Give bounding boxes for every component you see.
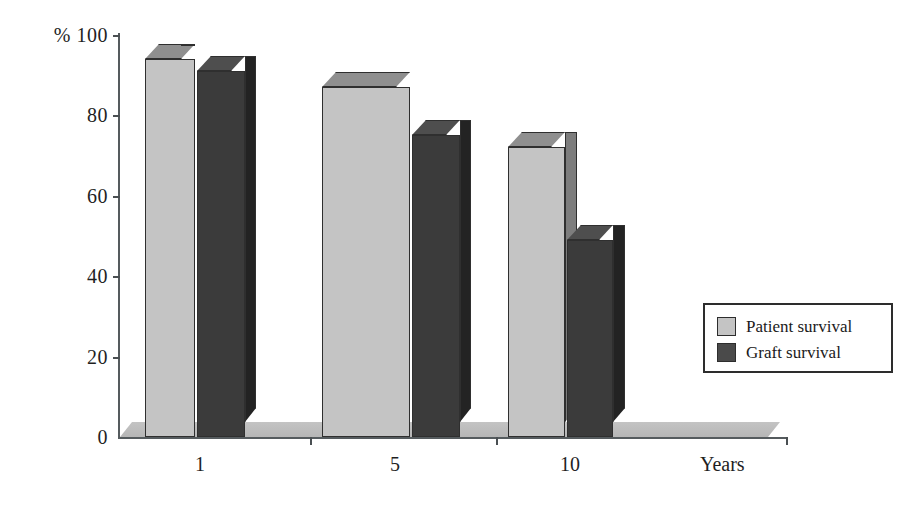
y-axis-label-20-wrap: 20 bbox=[10, 347, 108, 367]
y-axis-tick-40 bbox=[113, 276, 120, 278]
bar-patient-survival-year-5 bbox=[322, 72, 410, 437]
x-axis-label-10: 10 bbox=[525, 452, 615, 476]
x-axis-label-5: 5 bbox=[350, 452, 440, 476]
legend-item-graft-survival: Graft survival bbox=[717, 339, 891, 365]
legend-swatch-graft-survival bbox=[717, 343, 736, 362]
chart-legend: Patient survival Graft survival bbox=[703, 303, 893, 373]
bar-top-face bbox=[508, 132, 565, 147]
x-axis-label-1: 1 bbox=[155, 452, 245, 476]
bar-top-face bbox=[412, 120, 460, 135]
legend-item-patient-survival: Patient survival bbox=[717, 313, 891, 339]
y-axis-label-100: % 100 bbox=[10, 25, 108, 45]
legend-label-patient-survival: Patient survival bbox=[746, 317, 852, 336]
y-axis-label-0: 0 bbox=[10, 427, 108, 447]
bar-graft-survival-year-1-side bbox=[245, 56, 256, 422]
x-axis-line bbox=[118, 437, 788, 439]
y-axis-label-80: 80 bbox=[10, 105, 108, 125]
y-axis-label-80-wrap: 80 bbox=[10, 105, 108, 125]
legend-label-graft-survival: Graft survival bbox=[746, 343, 841, 362]
bar-side-face bbox=[613, 225, 625, 422]
bar-patient-survival-year-1 bbox=[145, 44, 195, 437]
bar-graft-survival-year-5-side bbox=[460, 120, 471, 422]
bar-front-face bbox=[508, 147, 565, 437]
bar-chart-figure: % 100 80 60 40 20 0 bbox=[0, 0, 915, 510]
y-axis-tick-80 bbox=[113, 115, 120, 117]
y-axis-tick-100 bbox=[113, 35, 120, 37]
bar-front-face bbox=[322, 87, 410, 437]
bar-graft-survival-year-10 bbox=[567, 225, 613, 437]
y-axis-label-60: 60 bbox=[10, 186, 108, 206]
x-axis-tick-10 bbox=[786, 437, 788, 445]
bar-patient-survival-year-10 bbox=[508, 132, 565, 437]
y-axis-label-40: 40 bbox=[10, 266, 108, 286]
bar-graft-survival-year-5 bbox=[412, 120, 460, 437]
bar-side-face bbox=[460, 120, 471, 422]
bar-front-face bbox=[197, 71, 245, 437]
bar-side-face bbox=[245, 56, 256, 422]
x-axis-tick-1 bbox=[310, 437, 312, 445]
y-axis-label-60-wrap: 60 bbox=[10, 186, 108, 206]
x-axis-tick-5 bbox=[496, 437, 498, 445]
bar-side-face bbox=[181, 44, 195, 46]
bar-top-face bbox=[322, 72, 410, 87]
bar-top-face bbox=[567, 225, 613, 240]
y-axis-line bbox=[118, 33, 120, 439]
y-axis-label-20: 20 bbox=[10, 347, 108, 367]
bar-graft-survival-year-10-side bbox=[613, 225, 625, 422]
y-axis-tick-20 bbox=[113, 357, 120, 359]
legend-swatch-patient-survival bbox=[717, 317, 736, 336]
x-axis-title: Years bbox=[700, 452, 745, 476]
bar-graft-survival-year-1 bbox=[197, 56, 245, 437]
y-axis-label-0-wrap: 0 bbox=[10, 427, 108, 447]
bar-top-face bbox=[145, 44, 195, 59]
bar-top-face bbox=[197, 56, 245, 71]
bar-front-face bbox=[145, 59, 195, 437]
y-axis-tick-60 bbox=[113, 196, 120, 198]
bar-front-face bbox=[412, 135, 460, 437]
bar-front-face bbox=[567, 240, 613, 437]
y-axis-label-100-wrap: % 100 bbox=[10, 25, 108, 45]
y-axis-label-40-wrap: 40 bbox=[10, 266, 108, 286]
